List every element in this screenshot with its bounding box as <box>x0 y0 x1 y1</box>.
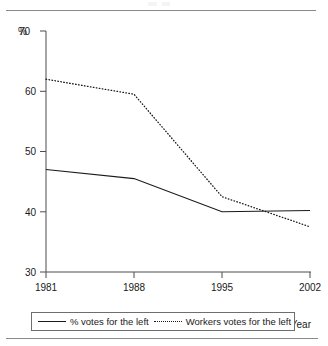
legend-swatch-solid-line-icon <box>38 321 66 322</box>
legend-label-workers-votes-left: Workers votes for the left <box>182 317 296 327</box>
chart-legend: % votes for the left Workers votes for t… <box>31 312 295 331</box>
legend-label-votes-left: % votes for the left <box>66 317 154 327</box>
bottom-divider <box>6 338 318 339</box>
legend-item-workers-votes-left: Workers votes for the left <box>154 317 296 327</box>
legend-swatch-dotted-line-icon <box>154 321 182 322</box>
legend-item-votes-left: % votes for the left <box>38 317 154 327</box>
x-axis-title-layer: Year <box>0 0 328 346</box>
chart-figure: % 70 60 50 40 30 1981 1988 1995 2002 Yea… <box>0 0 328 346</box>
